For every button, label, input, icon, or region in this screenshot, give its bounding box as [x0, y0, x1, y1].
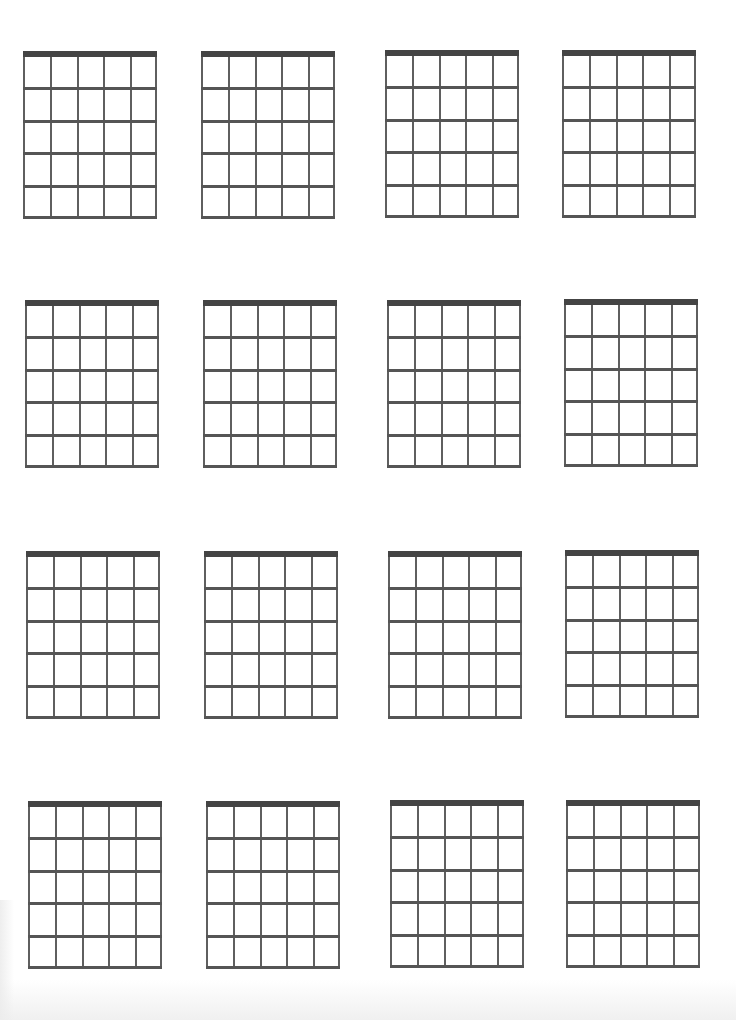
fret-line [23, 185, 157, 188]
chord-diagram [562, 50, 696, 218]
fret-line [206, 870, 340, 873]
string-line [698, 800, 700, 968]
chord-diagram [388, 551, 522, 719]
string-line [497, 800, 499, 968]
string-line [336, 551, 338, 719]
string-line [130, 51, 132, 219]
fret-line [387, 401, 521, 404]
nut-bar [385, 50, 519, 56]
nut-bar [203, 300, 337, 306]
fret-line [388, 685, 522, 688]
string-line [77, 51, 79, 219]
fret-line [206, 902, 340, 905]
fret-line [565, 586, 699, 589]
string-line [308, 51, 310, 219]
chord-diagram [201, 51, 335, 219]
fret-line [388, 587, 522, 590]
string-line [385, 50, 387, 218]
string-line [105, 300, 107, 468]
string-line [672, 550, 674, 718]
fret-line [564, 400, 698, 403]
fret-line [25, 465, 159, 468]
string-line [108, 801, 110, 969]
string-line [335, 300, 337, 468]
fret-line [25, 434, 159, 437]
fret-line [388, 620, 522, 623]
string-line [135, 801, 137, 969]
string-line [696, 299, 698, 467]
fret-line [566, 901, 700, 904]
string-line [520, 551, 522, 719]
string-line [417, 800, 419, 968]
nut-bar [206, 801, 340, 807]
string-line [257, 300, 259, 468]
fret-line [388, 716, 522, 719]
chord-diagram [28, 801, 162, 969]
nut-bar [565, 550, 699, 556]
string-line [619, 550, 621, 718]
fret-line [26, 620, 160, 623]
string-line [694, 50, 696, 218]
string-line [591, 299, 593, 467]
chord-diagram [385, 50, 519, 218]
fret-line [564, 368, 698, 371]
fret-line [385, 184, 519, 187]
string-line [442, 551, 444, 719]
nut-bar [26, 551, 160, 557]
fret-line [206, 966, 340, 969]
fret-line [390, 836, 524, 839]
fret-line [562, 86, 696, 89]
string-line [414, 300, 416, 468]
fret-line [390, 901, 524, 904]
nut-bar [28, 801, 162, 807]
string-line [616, 50, 618, 218]
string-line [642, 50, 644, 218]
string-line [565, 550, 567, 718]
fret-line [390, 965, 524, 968]
nut-bar [25, 300, 159, 306]
string-line [517, 50, 519, 218]
string-line [160, 801, 162, 969]
fret-line [385, 215, 519, 218]
fret-line [28, 837, 162, 840]
string-line [52, 300, 54, 468]
fret-line [387, 465, 521, 468]
string-line [644, 299, 646, 467]
chord-diagram [26, 551, 160, 719]
string-line [671, 299, 673, 467]
string-line [255, 51, 257, 219]
fret-line [28, 935, 162, 938]
fret-line [566, 965, 700, 968]
string-line [155, 51, 157, 219]
chord-diagram [204, 551, 338, 719]
string-line [158, 551, 160, 719]
fret-line [562, 151, 696, 154]
fret-line [566, 934, 700, 937]
string-line [231, 551, 233, 719]
string-line [444, 800, 446, 968]
string-line [519, 300, 521, 468]
fret-line [201, 216, 335, 219]
fret-line [26, 652, 160, 655]
string-line [470, 800, 472, 968]
fret-line [387, 369, 521, 372]
fret-line [204, 716, 338, 719]
string-line [28, 801, 30, 969]
string-line [412, 50, 414, 218]
fret-line [23, 120, 157, 123]
string-line [132, 300, 134, 468]
string-line [592, 550, 594, 718]
fret-line [26, 716, 160, 719]
fret-line [388, 652, 522, 655]
string-line [103, 51, 105, 219]
fret-line [28, 902, 162, 905]
string-line [50, 51, 52, 219]
string-line [201, 51, 203, 219]
scan-shadow-left [0, 900, 14, 1020]
nut-bar [562, 50, 696, 56]
string-line [387, 300, 389, 468]
fret-line [203, 401, 337, 404]
fret-line [26, 685, 160, 688]
nut-bar [566, 800, 700, 806]
fret-line [28, 870, 162, 873]
